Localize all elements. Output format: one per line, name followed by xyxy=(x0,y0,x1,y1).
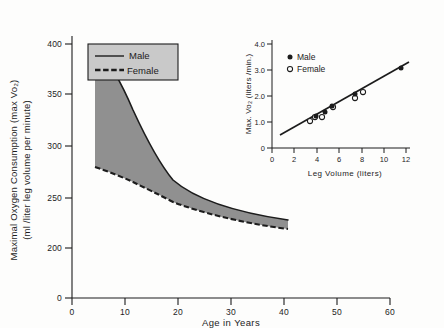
inset-legend-marker-female xyxy=(287,66,292,71)
inset-ytick-2: 2.0 xyxy=(255,92,265,101)
data-point-male xyxy=(323,110,328,115)
inset-xtick-2: 2 xyxy=(292,155,296,164)
main-x-ticks xyxy=(72,298,390,305)
data-point-female xyxy=(307,118,312,123)
main-y-tick-labels: 400 350 300 250 200 0 xyxy=(47,39,62,303)
figure-container: 400 350 300 250 200 0 0 10 20 xyxy=(0,0,444,328)
main-ytick-350: 350 xyxy=(47,89,62,99)
data-point-female xyxy=(360,89,365,94)
inset-xtick-0: 0 xyxy=(270,155,274,164)
main-ytick-0: 0 xyxy=(57,293,62,303)
inset-ytick-4: 4.0 xyxy=(255,40,265,49)
main-xtick-30: 30 xyxy=(226,307,236,317)
main-x-axis-title: Age in Years xyxy=(202,317,260,328)
data-point-male xyxy=(399,66,404,71)
inset-legend-marker-male xyxy=(288,55,293,60)
main-plot: 400 350 300 250 200 0 0 10 20 xyxy=(8,36,395,328)
inset-legend-label-male: Male xyxy=(297,52,316,62)
main-ytick-200: 200 xyxy=(47,243,62,253)
inset-x-ticks xyxy=(272,148,406,153)
inset-y-ticks xyxy=(267,44,272,148)
main-y-axis-title-line1: Maximal Oxygen Consumption (max Vo₂) xyxy=(8,80,19,261)
main-y-ticks xyxy=(65,44,72,298)
inset-x-tick-labels: 0 2 4 6 8 10 12 xyxy=(270,155,410,164)
data-point-male xyxy=(314,114,319,119)
inset-x-axis-title: Leg Volume (liters) xyxy=(308,169,382,178)
inset-y-tick-labels: 4.0 3.0 2.0 1.0 0 xyxy=(255,40,265,153)
data-point-female xyxy=(319,114,324,119)
figure-svg: 400 350 300 250 200 0 0 10 20 xyxy=(0,0,444,328)
inset-ytick-1: 1.0 xyxy=(255,118,265,127)
main-xtick-0: 0 xyxy=(70,307,75,317)
inset-xtick-10: 10 xyxy=(380,155,388,164)
data-point-male xyxy=(353,92,358,97)
main-xtick-10: 10 xyxy=(120,307,130,317)
inset-y-axis-title: Max. Vo₂ (liters /min.) xyxy=(244,54,253,135)
main-legend: Male Female xyxy=(88,44,178,80)
inset-legend: Male Female xyxy=(287,52,325,74)
inset-ytick-3: 3.0 xyxy=(255,66,265,75)
main-x-tick-labels: 0 10 20 30 40 50 60 xyxy=(70,307,395,317)
inset-plot: 4.0 3.0 2.0 1.0 0 0 2 4 6 8 xyxy=(244,40,410,178)
main-xtick-50: 50 xyxy=(332,307,342,317)
main-ytick-300: 300 xyxy=(47,141,62,151)
inset-ytick-0: 0 xyxy=(261,144,265,153)
main-xtick-60: 60 xyxy=(385,307,395,317)
main-y-axis-title-line2: (ml /liter leg volume per minute) xyxy=(21,100,32,240)
inset-xtick-6: 6 xyxy=(337,155,341,164)
main-ytick-250: 250 xyxy=(47,193,62,203)
main-legend-label-male: Male xyxy=(129,50,150,61)
main-legend-label-female: Female xyxy=(127,65,159,76)
main-xtick-40: 40 xyxy=(279,307,289,317)
inset-xtick-8: 8 xyxy=(360,155,364,164)
inset-legend-label-female: Female xyxy=(297,64,326,74)
inset-xtick-12: 12 xyxy=(402,155,410,164)
inset-xtick-4: 4 xyxy=(315,155,319,164)
data-point-male xyxy=(330,104,335,109)
main-xtick-20: 20 xyxy=(173,307,183,317)
main-ytick-400: 400 xyxy=(47,39,62,49)
